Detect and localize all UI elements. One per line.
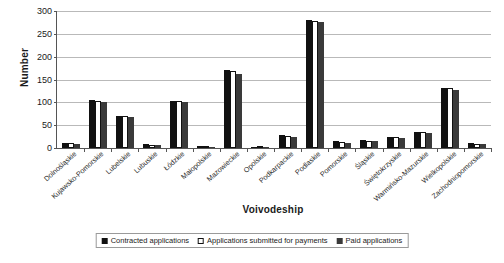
y-tick-mark [54,102,57,103]
bar-group [383,11,410,148]
bar [426,133,432,148]
bar [291,137,297,148]
bar-groups [57,11,491,148]
bar-group [138,11,165,148]
bar-group [437,11,464,148]
bar-group [274,11,301,148]
legend-label: Applications submitted for payments [207,236,327,245]
bar [372,141,378,148]
bar-group [220,11,247,148]
bar-group [84,11,111,148]
y-tick-label: 250 [37,29,52,38]
bar-group [57,11,84,148]
bar [480,144,486,148]
bar-chart: Number 050100150200250300 DolnośląskieKu… [0,0,504,263]
y-tick-label: 100 [37,98,52,107]
bar [318,22,324,148]
bar-group [328,11,355,148]
y-tick-label: 300 [37,7,52,16]
y-tick-label: 50 [42,121,52,130]
y-tick-label: 200 [37,52,52,61]
x-axis-title: Voivodeship [56,204,490,215]
legend-item: Contracted applications [102,236,189,245]
legend-swatch-icon [337,238,343,244]
legend-label: Paid applications [346,236,403,245]
bar [453,90,459,148]
legend-label: Contracted applications [111,236,189,245]
y-tick-label: 150 [37,75,52,84]
bar [209,147,215,148]
bar [128,117,134,148]
bar [236,74,242,148]
y-tick-mark [54,34,57,35]
legend-swatch-icon [198,238,204,244]
bar-group [166,11,193,148]
bar [263,147,269,148]
bar-group [193,11,220,148]
bar-group [410,11,437,148]
legend-swatch-icon [102,238,108,244]
x-axis-tick-labels: DolnośląskieKujawsko-PomorskieLubelskieL… [56,150,490,206]
bar [399,138,405,148]
x-tick-mark [491,148,492,152]
chart-legend: Contracted applicationsApplications subm… [96,233,409,248]
legend-item: Applications submitted for payments [198,236,327,245]
plot-inner [57,11,491,148]
bar-group [355,11,382,148]
bar-group [111,11,138,148]
y-tick-mark [54,11,57,12]
bar [345,143,351,148]
bar-group [247,11,274,148]
y-tick-mark [54,125,57,126]
y-tick-mark [54,80,57,81]
bar [155,145,161,148]
y-tick-label: 0 [47,144,52,153]
plot-area [56,11,491,149]
bar [74,144,80,148]
bar-group [301,11,328,148]
y-tick-mark [54,148,57,149]
bar [182,102,188,148]
y-axis-tick-labels: 050100150200250300 [26,11,52,148]
bar [101,102,107,148]
y-tick-mark [54,57,57,58]
legend-item: Paid applications [337,236,403,245]
bar-group [464,11,491,148]
